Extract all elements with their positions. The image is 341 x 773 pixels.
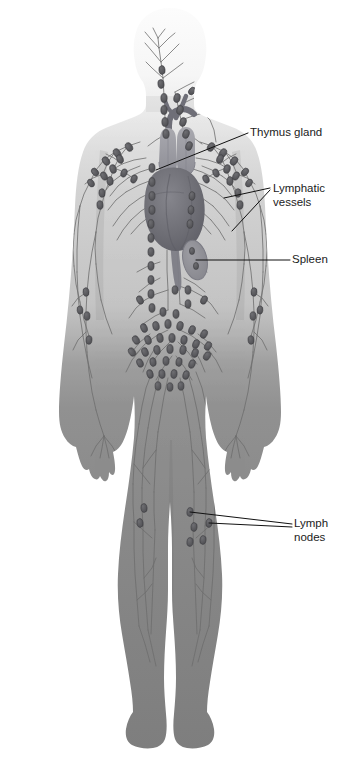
label-thymus-gland: Thymus gland [250,126,322,140]
label-spleen-line-1: Spleen [292,253,328,267]
label-lymph-nodes-line-1: Lymph [294,517,328,531]
label-lymphatic-vessels-line-2: vessels [273,196,325,210]
label-lymph-nodes-line-2: nodes [294,531,328,545]
anatomy-illustration [0,0,341,773]
label-spleen: Spleen [292,253,328,267]
leader-nodes-lower [209,523,292,527]
lymphatic-system-diagram: Thymus gland Lymphatic vessels Spleen Ly… [0,0,341,773]
label-lymphatic-vessels: Lymphatic vessels [273,182,325,209]
label-thymus-gland-line-1: Thymus gland [250,126,322,140]
label-lymphatic-vessels-line-1: Lymphatic [273,182,325,196]
label-lymph-nodes: Lymph nodes [294,517,328,544]
